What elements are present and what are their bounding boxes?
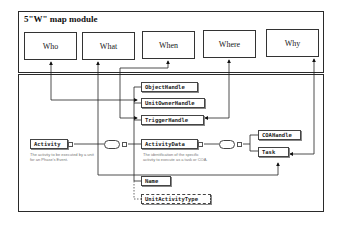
coahandle-label: COAHandle — [262, 132, 292, 138]
triggerhandle-label: TriggerHandle — [145, 117, 188, 123]
unitownerhandle-label: UnitOwnerHandle — [145, 100, 195, 106]
connector-lines — [0, 0, 340, 225]
activitydata-description: The identification of the specific activ… — [143, 152, 211, 162]
sequence-compositor-icon[interactable] — [104, 140, 120, 149]
expand-sequence-icon[interactable] — [122, 142, 127, 147]
activitydata-label: ActivityData — [145, 141, 185, 147]
sequence-compositor-2-icon[interactable] — [219, 140, 235, 149]
task-element[interactable]: Task — [258, 147, 289, 157]
expand-activitydata-icon[interactable] — [198, 142, 203, 147]
activitydata-element[interactable]: ActivityData — [141, 139, 198, 149]
activity-label: Activity — [34, 141, 61, 147]
unitactivitytype-label: UnitActivityType — [145, 196, 198, 202]
unitownerhandle-element[interactable]: UnitOwnerHandle — [141, 98, 205, 108]
activity-element[interactable]: Activity — [30, 139, 68, 149]
triggerhandle-element[interactable]: TriggerHandle — [141, 115, 204, 125]
coahandle-element[interactable]: COAHandle — [258, 130, 301, 140]
name-label: Name — [145, 178, 158, 184]
task-label: Task — [262, 149, 275, 155]
unitactivitytype-element[interactable]: UnitActivityType — [141, 194, 211, 204]
activity-description: The activity to be executed by a unit fo… — [30, 152, 94, 162]
objecthandle-element[interactable]: ObjectHandle — [141, 82, 198, 92]
expand-activity-icon[interactable] — [68, 142, 73, 147]
objecthandle-label: ObjectHandle — [145, 84, 185, 90]
name-element[interactable]: Name — [141, 176, 171, 186]
expand-sequence-2-icon[interactable] — [237, 142, 242, 147]
